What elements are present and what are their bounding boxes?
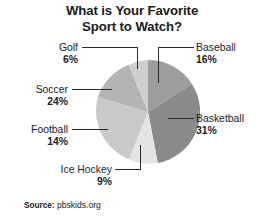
source-line: Source: pbskids.org — [24, 200, 101, 210]
callout-basketball-label: Basketball — [196, 113, 262, 125]
source-value: pbskids.org — [57, 200, 101, 210]
callout-golf: Golf 6% — [32, 42, 78, 65]
callout-soccer: Soccer 24% — [14, 84, 68, 107]
leader-golf-vertical — [137, 47, 138, 69]
callout-football: Football 14% — [10, 124, 68, 147]
pie-chart-figure: What is Your Favorite Sport to Watch? Go… — [0, 0, 264, 222]
leader-basketball-horizontal — [168, 118, 194, 119]
callout-baseball-value: 16% — [196, 54, 262, 66]
callout-golf-label: Golf — [32, 42, 78, 54]
leader-ice-hockey-vertical — [140, 145, 141, 170]
callout-football-label: Football — [10, 124, 68, 136]
pie-svg — [96, 60, 200, 164]
leader-baseball-horizontal — [158, 47, 194, 48]
pie-graphic — [96, 60, 200, 164]
leader-baseball-vertical — [158, 47, 159, 83]
chart-title-line-1: What is Your Favorite — [0, 3, 264, 19]
callout-soccer-label: Soccer — [14, 84, 68, 96]
callout-basketball-value: 31% — [196, 125, 262, 137]
callout-ice-hockey-label: Ice Hockey — [42, 164, 112, 176]
chart-title: What is Your Favorite Sport to Watch? — [0, 3, 264, 34]
leader-ice-hockey-horizontal — [115, 169, 141, 170]
callout-basketball: Basketball 31% — [196, 113, 262, 136]
callout-soccer-value: 24% — [14, 96, 68, 108]
chart-title-line-2: Sport to Watch? — [0, 19, 264, 35]
callout-ice-hockey: Ice Hockey 9% — [42, 164, 112, 187]
leader-football-horizontal — [72, 129, 108, 130]
source-label: Source: — [24, 201, 54, 210]
leader-golf-horizontal — [82, 47, 138, 48]
callout-baseball-label: Baseball — [196, 42, 262, 54]
callout-golf-value: 6% — [32, 54, 78, 66]
callout-baseball: Baseball 16% — [196, 42, 262, 65]
callout-ice-hockey-value: 9% — [42, 176, 112, 188]
leader-soccer-horizontal — [72, 89, 112, 90]
callout-football-value: 14% — [10, 136, 68, 148]
